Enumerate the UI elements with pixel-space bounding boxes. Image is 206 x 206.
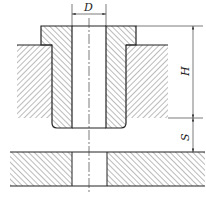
- section-drawing: D H S: [0, 0, 206, 206]
- label-H: H: [179, 66, 192, 77]
- die-block-left: [17, 45, 52, 118]
- label-D: D: [83, 1, 93, 14]
- dimension-S: S: [179, 118, 193, 152]
- label-S: S: [179, 133, 192, 141]
- bushing: [41, 26, 136, 128]
- lower-plate: [10, 152, 205, 186]
- die-block-right: [126, 45, 168, 118]
